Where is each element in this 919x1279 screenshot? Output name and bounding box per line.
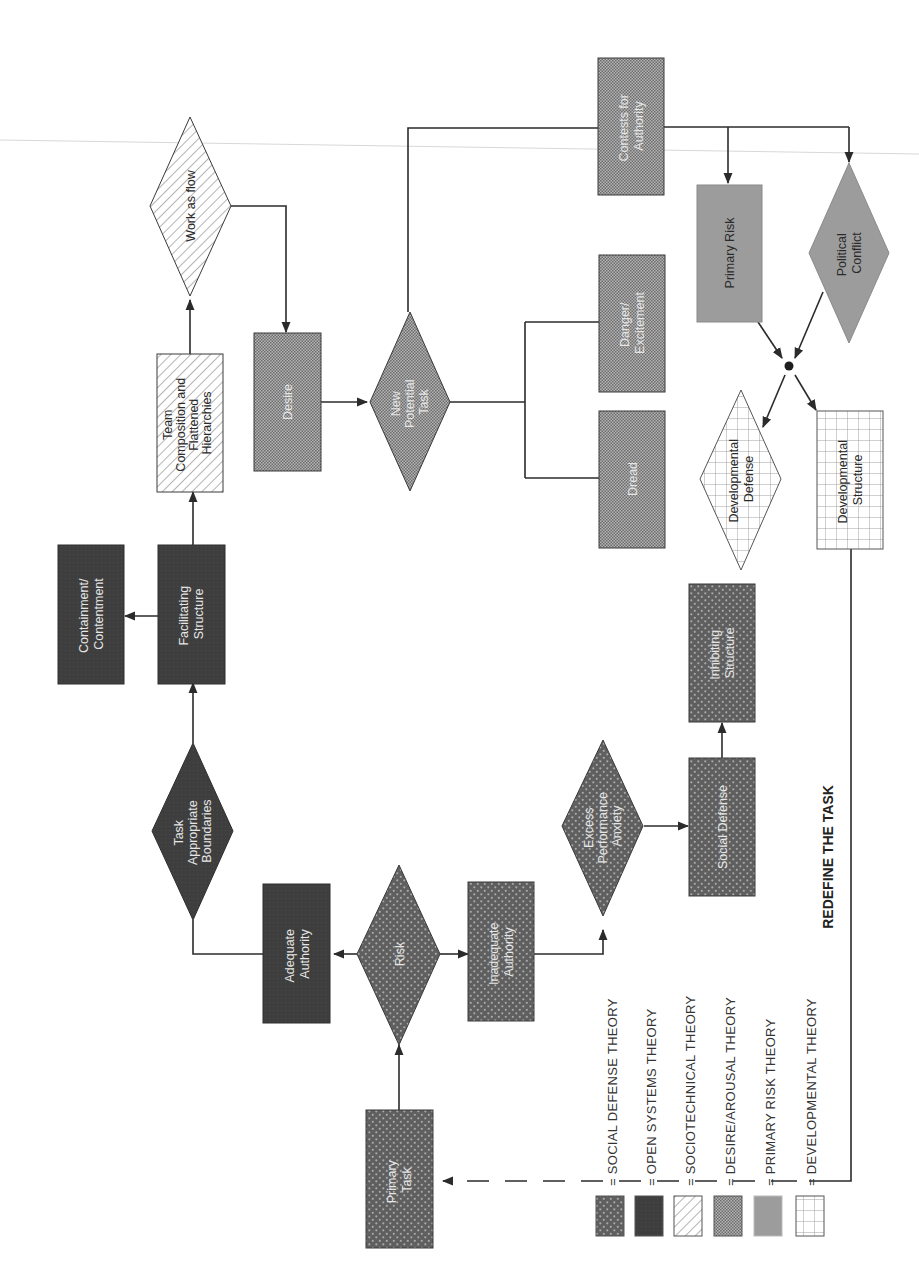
legend-swatch-developmental bbox=[796, 1196, 824, 1236]
svg-text:Desire: Desire bbox=[281, 384, 295, 420]
node-label: Conflict bbox=[850, 232, 864, 274]
node-label: Developmental bbox=[727, 439, 741, 522]
node-team-composition[interactable]: Team Composition and Flattened Hierarchi… bbox=[157, 354, 223, 492]
node-label: Hierarchies bbox=[200, 391, 214, 454]
node-label: Facilitating bbox=[177, 586, 191, 646]
node-label: Authority bbox=[632, 101, 646, 151]
node-label: New bbox=[389, 390, 403, 416]
scan-artifact bbox=[0, 140, 919, 154]
legend-swatch-open-systems bbox=[635, 1196, 663, 1236]
legend-text-developmental: = DEVELOPMENTAL THEORY bbox=[804, 998, 819, 1186]
legend-swatch-sociotechnical bbox=[674, 1196, 702, 1236]
node-label: Developmental bbox=[836, 440, 850, 523]
node-label: Team bbox=[161, 409, 175, 440]
legend-text-desire-arousal: = DESIRE/AROUSAL THEORY bbox=[723, 997, 738, 1186]
svg-text:Inhibiting Structure: Inhibiting Structure bbox=[708, 626, 737, 680]
node-label: Flattened bbox=[187, 399, 201, 451]
node-label: Adequate bbox=[283, 929, 297, 983]
node-label: Political bbox=[835, 233, 849, 276]
node-desire[interactable]: Desire bbox=[254, 333, 321, 471]
node-label: Excess bbox=[582, 808, 596, 848]
svg-text:Work as flow: Work as flow bbox=[184, 169, 198, 241]
svg-text:Danger/ Excitement: Danger/ Excitement bbox=[618, 292, 647, 354]
svg-text:Containment/ Contentment: Containment/ Contentment bbox=[77, 575, 106, 653]
node-facilitating-structure[interactable]: Facilitating Structure bbox=[158, 545, 225, 684]
node-label: Primary bbox=[385, 1159, 399, 1203]
node-excess-performance-anxiety[interactable]: Excess Performance Anxiety bbox=[562, 740, 643, 916]
node-adequate-authority[interactable]: Adequate Authority bbox=[263, 884, 330, 1023]
svg-text:Political Conflict: Political Conflict bbox=[835, 230, 864, 277]
node-social-defense[interactable]: Social Defense bbox=[689, 758, 755, 896]
node-label: Structure bbox=[851, 455, 865, 506]
node-label: Risk bbox=[393, 941, 407, 966]
node-developmental-structure[interactable]: Developmental Structure bbox=[817, 411, 883, 549]
node-danger-excitement[interactable]: Danger/ Excitement bbox=[599, 255, 665, 392]
node-label: Defense bbox=[742, 456, 756, 503]
node-label: Contests for bbox=[617, 94, 631, 161]
node-primary-risk[interactable]: Primary Risk bbox=[697, 185, 762, 322]
redefine-task-label: REDEFINE THE TASK bbox=[820, 785, 836, 929]
node-label: Contentment bbox=[92, 578, 106, 650]
node-label: Primary Risk bbox=[723, 217, 737, 289]
node-label: Inadequate bbox=[487, 922, 501, 985]
node-inadequate-authority[interactable]: Inadequate Authority bbox=[468, 882, 534, 1021]
node-new-potential-task[interactable]: New Potential Task bbox=[370, 312, 450, 491]
svg-text:Adequate Authority: Adequate Authority bbox=[283, 925, 312, 982]
svg-text:Risk: Risk bbox=[393, 941, 407, 966]
node-political-conflict[interactable]: Political Conflict bbox=[809, 163, 889, 343]
legend-text-primary-risk: = PRIMARY RISK THEORY bbox=[763, 1018, 778, 1186]
node-label: Composition and bbox=[174, 378, 188, 472]
node-primary-task[interactable]: Primary Task bbox=[366, 1110, 433, 1248]
node-label: Appropriate bbox=[186, 800, 200, 865]
node-label: Danger/ bbox=[618, 302, 632, 347]
node-risk[interactable]: Risk bbox=[357, 865, 440, 1045]
node-label: Authority bbox=[502, 927, 516, 977]
node-developmental-defense[interactable]: Developmental Defense bbox=[700, 390, 781, 570]
node-inhibiting-structure[interactable]: Inhibiting Structure bbox=[689, 584, 755, 722]
legend-text-sociotechnical: = SOCIOTECHNICAL THEORY bbox=[683, 995, 698, 1186]
node-label: Desire bbox=[281, 384, 295, 420]
node-containment-contentment[interactable]: Containment/ Contentment bbox=[58, 545, 124, 684]
theory-flow-diagram: Primary Task Risk Adequate Authority Ina… bbox=[0, 0, 919, 1279]
legend-text-open-systems: = OPEN SYSTEMS THEORY bbox=[644, 1009, 659, 1186]
node-label: Containment/ bbox=[77, 578, 91, 653]
node-work-as-flow[interactable]: Work as flow bbox=[150, 117, 231, 296]
node-label: Inhibiting bbox=[708, 630, 722, 680]
svg-text:Dread: Dread bbox=[626, 462, 640, 496]
legend: = SOCIAL DEFENSE THEORY = OPEN SYSTEMS T… bbox=[596, 995, 824, 1236]
node-label: Social Defense bbox=[716, 785, 730, 869]
svg-text:Social Defense: Social Defense bbox=[716, 785, 730, 869]
node-label: Work as flow bbox=[184, 169, 198, 241]
svg-text:Facilitating Structure: Facilitating Structure bbox=[177, 582, 206, 645]
node-label: Excitement bbox=[633, 292, 647, 354]
legend-text-social-defense: = SOCIAL DEFENSE THEORY bbox=[605, 998, 620, 1186]
node-label: Structure bbox=[192, 589, 206, 640]
node-label: Structure bbox=[723, 628, 737, 679]
node-label: Dread bbox=[626, 462, 640, 496]
node-label: Boundaries bbox=[200, 799, 214, 862]
node-label: Task bbox=[172, 819, 186, 845]
node-label: Potential bbox=[403, 379, 417, 428]
legend-swatch-desire-arousal bbox=[714, 1196, 742, 1236]
node-contests-for-authority[interactable]: Contests for Authority bbox=[598, 58, 664, 195]
junction-dot bbox=[785, 362, 794, 371]
legend-swatch-primary-risk bbox=[754, 1196, 782, 1236]
node-dread[interactable]: Dread bbox=[599, 411, 665, 548]
svg-text:Primary Risk: Primary Risk bbox=[723, 217, 737, 289]
node-label: Authority bbox=[298, 929, 312, 979]
node-label: Anxiety bbox=[610, 805, 624, 847]
node-task-appropriate-boundaries[interactable]: Task Appropriate Boundaries bbox=[152, 743, 233, 920]
node-label: Task bbox=[417, 388, 431, 414]
legend-swatch-social-defense bbox=[596, 1196, 624, 1236]
node-label: Task bbox=[400, 1166, 414, 1192]
node-label: Performance bbox=[596, 792, 610, 864]
svg-text:Inadequate Authority: Inadequate Authority bbox=[487, 919, 516, 985]
